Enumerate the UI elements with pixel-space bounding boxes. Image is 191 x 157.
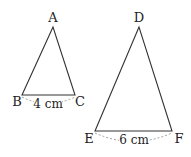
triangle-abc: A B C 4 cm: [12, 10, 85, 111]
vertex-label-c: C: [75, 94, 85, 109]
vertex-label-a: A: [47, 10, 58, 25]
triangle-def-shape: [95, 27, 172, 131]
vertex-label-f: F: [174, 131, 183, 146]
triangle-def: D E F 6 cm: [84, 10, 183, 147]
vertex-label-e: E: [84, 131, 94, 146]
bc-measure-label: 4 cm: [33, 97, 63, 111]
diagram-canvas: A B C 4 cm D E F 6 cm: [0, 0, 191, 157]
triangle-abc-shape: [22, 27, 75, 95]
vertex-label-d: D: [134, 10, 144, 25]
vertex-label-b: B: [12, 94, 22, 109]
ef-measure-label: 6 cm: [119, 133, 149, 147]
